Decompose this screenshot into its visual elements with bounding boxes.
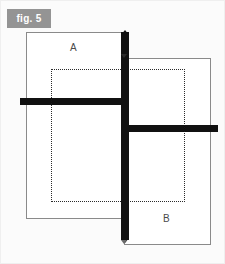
figure-number-tag: fig. 5 (7, 9, 51, 28)
corner-tick-lower-icon (121, 240, 127, 244)
horizontal-bar-left (20, 98, 123, 105)
corner-tick-upper-icon (121, 54, 127, 58)
dotted-overlay-rectangle (51, 69, 185, 202)
rectangle-a-label: A (70, 42, 77, 53)
arrow-up-icon (121, 30, 129, 35)
horizontal-bar-right (126, 125, 218, 132)
vertical-bar (121, 32, 129, 240)
figure-container: fig. 5 A B (0, 0, 225, 264)
rectangle-b-label: B (163, 213, 170, 224)
